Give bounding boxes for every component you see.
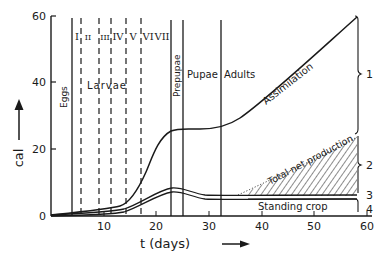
y-tick-0: 0	[39, 210, 46, 223]
y-tick-60: 60	[32, 10, 46, 23]
bracket-2	[358, 136, 361, 193]
x-tick-60: 60	[360, 220, 374, 233]
assimilation-label: Assimilation	[260, 61, 315, 107]
stage-adults: Adults	[224, 69, 255, 80]
stage-labels: Eggs Larvae I II III IV V VI VII Prepupa…	[59, 31, 255, 108]
instar-7: VII	[153, 31, 169, 42]
instar-2: II	[85, 33, 91, 42]
instar-6: VI	[141, 31, 153, 42]
right-brackets: 1 2 3 4	[355, 16, 373, 216]
x-tick-30: 30	[202, 220, 216, 233]
right-arrow-icon	[240, 241, 250, 248]
bracket-2-label: 2	[366, 159, 373, 172]
x-tick-40: 40	[255, 220, 269, 233]
stage-eggs: Eggs	[59, 86, 69, 108]
y-tick-40: 40	[32, 76, 46, 89]
instar-5: V	[128, 31, 137, 42]
y-axis: 60 40 20 0 cal	[11, 10, 56, 223]
bracket-4-label: 4	[366, 203, 373, 216]
instar-1: I	[75, 31, 79, 42]
y-axis-title: cal	[11, 99, 26, 167]
instar-4: IV	[112, 31, 124, 42]
y-tick-20: 20	[32, 143, 46, 156]
standing-crop-label: Standing crop	[258, 201, 328, 212]
arrow-head-icon	[15, 99, 24, 110]
x-tick-20: 20	[149, 220, 163, 233]
energy-budget-chart: 60 40 20 0 cal 10 20 30 40 50 60 t (days…	[0, 0, 388, 256]
instar-3: III	[100, 33, 109, 42]
bracket-1-label: 1	[366, 68, 373, 81]
stage-boundaries	[72, 18, 221, 216]
stage-pupae: Pupae	[187, 69, 218, 80]
x-tick-50: 50	[307, 220, 321, 233]
stage-prepupae: Prepupae	[172, 54, 182, 97]
x-axis: 10 20 30 40 50 60 t (days)	[51, 211, 374, 251]
x-axis-label: t (days)	[140, 236, 190, 251]
stage-larvae: Larvae	[87, 80, 127, 91]
bracket-3-label: 3	[366, 189, 373, 202]
y-axis-label: cal	[11, 149, 26, 168]
x-tick-10: 10	[97, 220, 111, 233]
bracket-1	[355, 16, 361, 134]
